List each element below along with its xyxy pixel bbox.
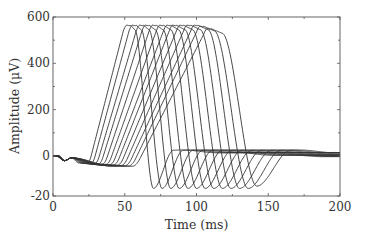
x-tick-label: 0 [49,200,57,214]
y-tick-label: -20 [31,189,50,203]
y-tick-label: 400 [27,56,50,70]
y-tick-label: 200 [27,103,50,117]
plot-frame [53,17,340,196]
x-tick-label: 100 [185,200,208,214]
x-tick-label: 150 [257,200,280,214]
trace-lines [53,25,340,188]
y-tick-label: 0 [42,149,50,163]
y-axis-label: Amplitude (μV) [7,58,22,155]
x-axis-label: Time (ms) [165,217,229,232]
amplitude-time-chart: 050100150200 6004002000-20 Time (ms) Amp… [0,0,366,239]
x-tick-label: 50 [117,200,132,214]
x-tick-label: 200 [329,200,352,214]
y-tick-label: 600 [27,10,50,24]
